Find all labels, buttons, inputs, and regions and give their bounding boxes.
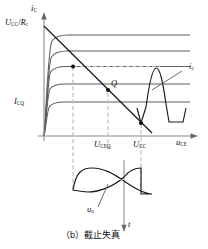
ic-label-leader (152, 71, 182, 90)
time-axis-label: t (128, 220, 130, 229)
x-axis-label: uCE (176, 138, 187, 147)
output-curve-ib2 (44, 84, 190, 136)
y-axis-arrow (41, 12, 47, 20)
upper-swing-limit-marker (71, 64, 75, 68)
uo-label-leader (98, 184, 108, 207)
q-point-label: Q (111, 79, 117, 88)
figure-caption: （b）截止失真 (61, 231, 120, 240)
q-point-marker (106, 88, 110, 92)
uo-waveform-label: uo (87, 205, 94, 214)
output-curve-ib3 (44, 67, 190, 137)
ic-waveform (137, 68, 186, 123)
y-axis-label: iC (31, 4, 37, 13)
load-line-y-intercept-label: UCC/Rc (5, 18, 28, 27)
uceq-label: UCEQ (94, 140, 111, 149)
dc-load-line (44, 26, 152, 133)
time-axis-arrow (121, 225, 126, 232)
icq-label: ICQ (14, 97, 24, 106)
output-curve-ib4 (44, 51, 190, 136)
x-axis-arrow (191, 133, 199, 139)
cutoff-distortion-figure (0, 0, 208, 249)
ucc-label: UCC (133, 140, 146, 149)
ic-waveform-label: ic (189, 62, 194, 71)
uo-waveform (73, 168, 152, 194)
